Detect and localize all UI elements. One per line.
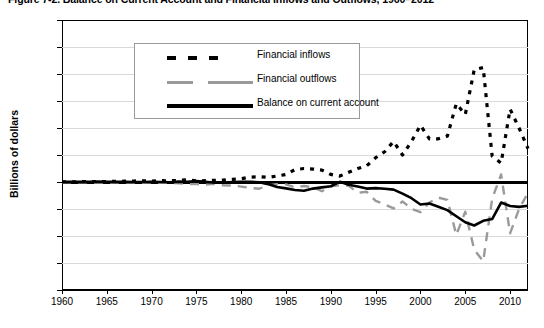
- x-axis-tick-label: 1965: [87, 296, 127, 307]
- x-axis-tick: [286, 290, 287, 294]
- x-axis-tick: [376, 290, 377, 294]
- x-axis-tick-label: 1985: [266, 296, 306, 307]
- legend-label-balance-current-account: Balance on current account: [257, 97, 379, 108]
- x-axis-tick-label: 2000: [400, 296, 440, 307]
- legend-label-financial-outflows: Financial outflows: [257, 73, 336, 84]
- x-axis-tick-label: 2010: [490, 296, 530, 307]
- x-axis-tick: [331, 290, 332, 294]
- series-line-balance-on-current-account: [62, 181, 528, 225]
- x-axis-tick: [107, 290, 108, 294]
- y-axis-label: Billions of dollars: [8, 74, 20, 234]
- x-axis-tick-label: 1975: [176, 296, 216, 307]
- x-axis-tick: [241, 290, 242, 294]
- legend-item-financial-inflows: Financial inflows: [135, 46, 359, 70]
- x-axis-tick: [62, 290, 63, 294]
- x-axis-tick-label: 1980: [221, 296, 261, 307]
- x-axis-tick-label: 1990: [311, 296, 351, 307]
- plot-area: Financial inflows Financial outflows Bal…: [62, 20, 528, 290]
- x-axis-tick: [510, 290, 511, 294]
- figure-container: Figure 7-2. Balance on Current Account a…: [0, 0, 544, 328]
- x-axis-tick: [196, 290, 197, 294]
- x-axis-tick: [420, 290, 421, 294]
- legend-item-financial-outflows: Financial outflows: [135, 70, 359, 94]
- dotted-line-swatch: [167, 56, 253, 60]
- legend-item-balance-current-account: Balance on current account: [135, 94, 359, 118]
- legend-label-financial-inflows: Financial inflows: [257, 49, 330, 60]
- x-axis-tick-label: 1995: [356, 296, 396, 307]
- dashed-line-swatch: [167, 81, 253, 84]
- figure-title: Figure 7-2. Balance on Current Account a…: [8, 0, 544, 5]
- x-axis-tick-label: 1960: [42, 296, 82, 307]
- x-axis-tick: [465, 290, 466, 294]
- x-axis-tick: [152, 290, 153, 294]
- legend-box: Financial inflows Financial outflows Bal…: [134, 43, 360, 119]
- solid-line-swatch: [167, 104, 253, 108]
- x-axis-tick-label: 2005: [445, 296, 485, 307]
- x-axis-tick-label: 1970: [132, 296, 172, 307]
